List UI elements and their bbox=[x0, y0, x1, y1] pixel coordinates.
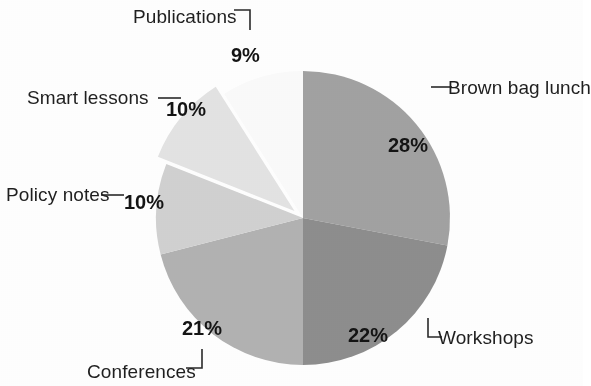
pie-slice-brown-bag-lunch[interactable] bbox=[303, 71, 450, 246]
slice-label-brown-bag-lunch: Brown bag lunch bbox=[448, 78, 591, 97]
slice-value-policy-notes: 10% bbox=[124, 192, 164, 212]
slice-label-conferences: Conferences bbox=[87, 362, 196, 381]
slice-value-workshops: 22% bbox=[348, 325, 388, 345]
slice-value-brown-bag-lunch: 28% bbox=[388, 135, 428, 155]
slice-label-smart-lessons: Smart lessons bbox=[27, 88, 149, 107]
slice-label-publications: Publications bbox=[133, 7, 237, 26]
slice-value-publications: 9% bbox=[231, 45, 260, 65]
slice-label-workshops: Workshops bbox=[438, 328, 534, 347]
slice-value-conferences: 21% bbox=[182, 318, 222, 338]
slice-label-policy-notes: Policy notes bbox=[6, 185, 110, 204]
slice-value-smart-lessons: 10% bbox=[166, 99, 206, 119]
